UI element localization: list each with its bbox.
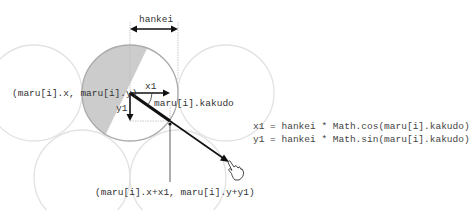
- hankei-arrow: [130, 26, 178, 33]
- y1-label: y1: [116, 103, 128, 114]
- center-label: (maru[i].x, maru[i].y): [12, 88, 137, 99]
- background-circles: [0, 45, 274, 210]
- formula-y1: y1 = hankei * Math.sin(maru[i].kakudo): [253, 133, 470, 146]
- kakudo-label: maru[i].kakudo: [154, 98, 234, 109]
- x1-label: x1: [145, 81, 157, 92]
- hankei-label: hankei: [139, 14, 174, 25]
- edge-point-label: (maru[i].x+x1, maru[i].y+y1): [95, 187, 255, 198]
- direction-arrow: [170, 121, 229, 162]
- edge-point: [168, 122, 171, 125]
- circle-angle-diagram: hankei x1 y1 maru[i].kakudo (maru[i].x, …: [0, 0, 470, 210]
- pointing-hand-cursor-icon: [228, 161, 243, 180]
- angle-arc: [148, 93, 152, 105]
- formula-x1: x1 = hankei * Math.cos(maru[i].kakudo): [253, 120, 470, 133]
